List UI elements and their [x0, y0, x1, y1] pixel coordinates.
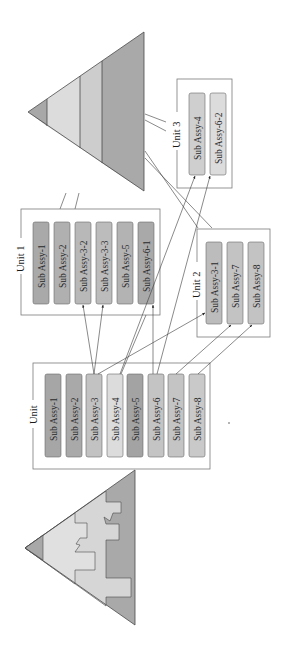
source-item: Sub Assy-7 [168, 374, 184, 457]
svg-text:Sub Assy-4: Sub Assy-4 [193, 116, 203, 160]
source-unit-label: Unit [28, 405, 39, 424]
source-item: Sub Assy-4 [107, 374, 123, 457]
svg-text:Sub Assy-8: Sub Assy-8 [252, 264, 262, 308]
svg-text:Sub Assy-3-1: Sub Assy-3-1 [210, 261, 220, 313]
unit1-group: Unit 1 Sub Assy-1 Sub Assy-2 Sub Assy-3-… [14, 209, 160, 315]
svg-text:Sub Assy-3-2: Sub Assy-3-2 [79, 240, 89, 292]
svg-text:Sub Assy-2: Sub Assy-2 [70, 397, 80, 441]
unit2-item: Sub Assy-7 [227, 242, 243, 324]
svg-text:Sub Assy-6-2: Sub Assy-6-2 [214, 112, 224, 164]
source-item: Sub Assy-6 [148, 374, 164, 457]
unit1-label: Unit 1 [15, 245, 26, 272]
source-unit-group: Unit Sub Assy-1 Sub Assy-2 Sub Assy-3 Su… [26, 363, 210, 469]
svg-text:Sub Assy-7: Sub Assy-7 [231, 264, 241, 308]
svg-text:Sub Assy-5: Sub Assy-5 [131, 397, 141, 441]
source-item: Sub Assy-5 [127, 374, 143, 457]
svg-text:Sub Assy-7: Sub Assy-7 [172, 397, 182, 441]
svg-text:Sub Assy-3: Sub Assy-3 [90, 397, 100, 441]
unit1-item: Sub Assy-2 [54, 222, 70, 304]
svg-text:Sub Assy-8: Sub Assy-8 [193, 397, 203, 441]
svg-text:Sub Assy-5: Sub Assy-5 [121, 244, 131, 288]
top-triangle-icon [28, 32, 144, 191]
svg-text:Sub Assy-2: Sub Assy-2 [58, 244, 68, 288]
unit2-item: Sub Assy-8 [248, 242, 264, 324]
svg-text:Sub Assy-6-1: Sub Assy-6-1 [142, 240, 152, 292]
svg-text:Sub Assy-1: Sub Assy-1 [37, 244, 47, 288]
unit1-item: Sub Assy-3-2 [75, 222, 91, 304]
unit1-item: Sub Assy-3-3 [96, 222, 112, 304]
source-item: Sub Assy-1 [45, 374, 61, 457]
structure-diagram: Unit 3 Sub Assy-4 Sub Assy-6-2 Unit 1 Su… [0, 0, 285, 661]
unit1-item: Sub Assy-6-1 [138, 222, 154, 304]
unit1-item: Sub Assy-5 [117, 222, 133, 304]
unit2-item: Sub Assy-3-1 [206, 242, 222, 324]
source-item: Sub Assy-3 [86, 374, 102, 457]
unit3-item: Sub Assy-4 [189, 93, 205, 175]
stray-dot [228, 422, 230, 424]
unit1-item: Sub Assy-1 [33, 222, 49, 304]
source-item: Sub Assy-8 [189, 374, 205, 457]
svg-text:Sub Assy-3-3: Sub Assy-3-3 [100, 240, 110, 292]
unit3-label: Unit 3 [171, 121, 182, 148]
unit3-item: Sub Assy-6-2 [210, 93, 226, 175]
svg-text:Sub Assy-1: Sub Assy-1 [49, 397, 59, 441]
unit3-group: Unit 3 Sub Assy-4 Sub Assy-6-2 [167, 79, 232, 188]
source-item: Sub Assy-2 [66, 374, 82, 457]
unit2-label: Unit 2 [191, 271, 202, 298]
svg-text:Sub Assy-4: Sub Assy-4 [111, 397, 121, 441]
svg-text:Sub Assy-6: Sub Assy-6 [152, 397, 162, 441]
bottom-triangle-icon [25, 470, 135, 625]
unit2-group: Unit 2 Sub Assy-3-1 Sub Assy-7 Sub Assy-… [190, 229, 270, 337]
